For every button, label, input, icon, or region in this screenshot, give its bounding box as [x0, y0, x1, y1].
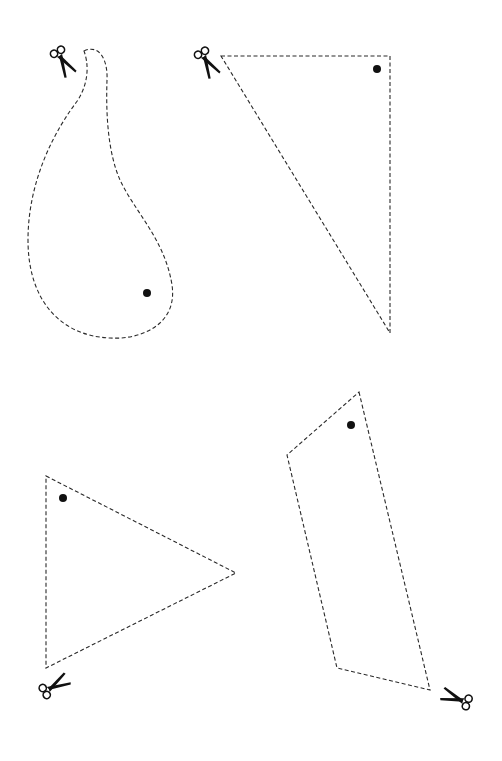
triangle-cut-line [46, 476, 236, 668]
right-triangle-cut-line [221, 56, 390, 333]
scissors-icon [439, 686, 473, 711]
hole-dot-icon [143, 289, 151, 297]
hole-dot-icon [59, 494, 67, 502]
scissors-icon [193, 46, 221, 80]
cutout-worksheet [0, 0, 502, 761]
scissors-icon [38, 671, 72, 699]
shape-quadrilateral [287, 392, 473, 711]
quadrilateral-cut-line [287, 392, 430, 690]
scissors-icon [49, 45, 77, 79]
hole-dot-icon [373, 65, 381, 73]
hole-dot-icon [347, 421, 355, 429]
shape-paisley [28, 45, 173, 338]
shape-right-triangle [193, 46, 390, 333]
shape-triangle [38, 476, 236, 700]
paisley-cut-line [28, 49, 173, 338]
